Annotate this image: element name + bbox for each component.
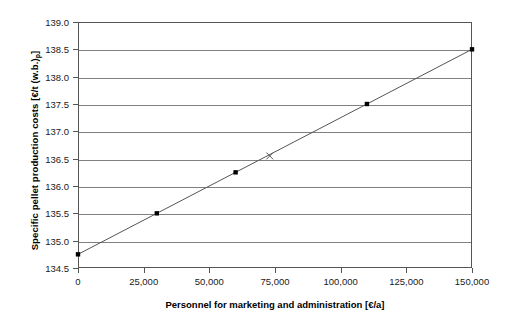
plot-area <box>78 22 472 268</box>
gridline <box>79 105 471 106</box>
x-axis-tick <box>341 268 342 273</box>
gridline <box>79 132 471 133</box>
gridline <box>79 187 471 188</box>
x-axis-tick <box>472 268 473 273</box>
x-axis-tick <box>209 268 210 273</box>
gridline <box>79 214 471 215</box>
chart-figure: Specific pellet production costs [€/t (w… <box>0 0 514 327</box>
gridline <box>79 160 471 161</box>
y-axis-tick-label: 138.5 <box>14 44 69 55</box>
x-axis-tick <box>78 268 79 273</box>
gridline <box>79 50 471 51</box>
x-axis-title: Personnel for marketing and administrati… <box>78 299 472 310</box>
y-axis-tick-label: 139.0 <box>14 17 69 28</box>
y-axis-tick-label: 135.5 <box>14 208 69 219</box>
y-axis-tick-label: 138.0 <box>14 71 69 82</box>
y-axis-tick-label: 136.0 <box>14 181 69 192</box>
x-axis-tick-label: 150,000 <box>432 276 512 287</box>
gridline <box>79 78 471 79</box>
x-axis-tick <box>275 268 276 273</box>
gridline <box>79 242 471 243</box>
y-axis-tick-label: 136.5 <box>14 153 69 164</box>
x-axis-tick <box>406 268 407 273</box>
y-axis-tick-label: 134.5 <box>14 263 69 274</box>
y-axis-tick-label: 137.5 <box>14 99 69 110</box>
x-axis-tick <box>144 268 145 273</box>
y-axis-tick-label: 137.0 <box>14 126 69 137</box>
y-axis-tick-label: 135.0 <box>14 235 69 246</box>
